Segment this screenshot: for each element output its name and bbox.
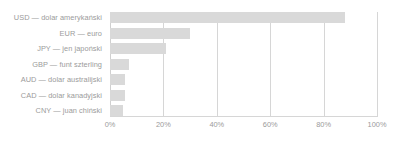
value-axis-line	[110, 116, 378, 117]
plot-area	[110, 12, 377, 116]
category-label-aud: AUD — dolar australijski	[0, 74, 106, 85]
bar-chart: USD — dolar amerykański EUR — euro JPY —…	[0, 0, 395, 143]
value-axis: 0%20%40%60%80%100%	[110, 119, 377, 131]
bar-usd	[110, 12, 345, 23]
category-label-cad: CAD — dolar kanadyjski	[0, 90, 106, 101]
table-row	[110, 105, 377, 116]
category-label-eur: EUR — euro	[0, 28, 106, 39]
bar-cad	[110, 90, 125, 101]
category-axis: USD — dolar amerykański EUR — euro JPY —…	[0, 12, 106, 116]
table-row	[110, 28, 377, 39]
category-label-usd: USD — dolar amerykański	[0, 12, 106, 23]
table-row	[110, 90, 377, 101]
table-row	[110, 74, 377, 85]
category-label-cny: CNY — juan chiński	[0, 105, 106, 116]
value-tick-label: 20%	[156, 119, 171, 130]
bar-cny	[110, 105, 123, 116]
value-tick-label: 40%	[209, 119, 224, 130]
bar-aud	[110, 74, 125, 85]
bar-eur	[110, 28, 190, 39]
table-row	[110, 43, 377, 54]
bars-layer	[110, 12, 377, 116]
value-tick-label: 0%	[105, 119, 116, 130]
table-row	[110, 59, 377, 70]
category-label-jpy: JPY — jen japoński	[0, 43, 106, 54]
category-label-gbp: GBP — funt szterling	[0, 59, 106, 70]
value-tick-label: 80%	[316, 119, 331, 130]
gridline	[377, 12, 378, 116]
bar-jpy	[110, 43, 166, 54]
value-tick-label: 100%	[368, 119, 387, 130]
bar-gbp	[110, 59, 129, 70]
value-tick-label: 60%	[263, 119, 278, 130]
table-row	[110, 12, 377, 23]
